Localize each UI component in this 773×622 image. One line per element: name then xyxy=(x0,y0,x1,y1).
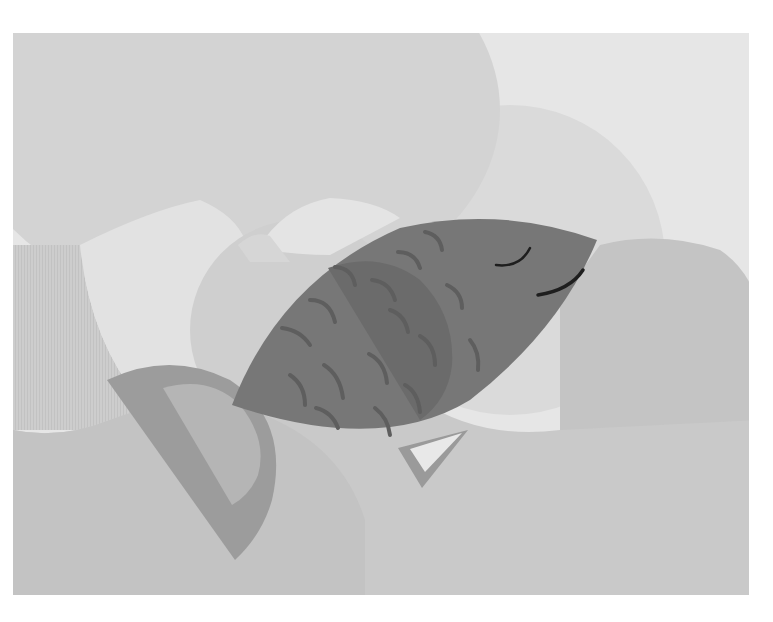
frame xyxy=(0,0,760,600)
illustration-canvas xyxy=(0,0,773,622)
fish-illustration xyxy=(0,0,773,622)
